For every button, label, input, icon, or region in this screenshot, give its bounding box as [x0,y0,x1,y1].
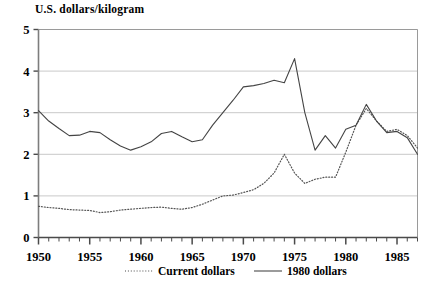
x-axis-tick-label: 1975 [282,250,307,264]
y-axis-tick-label: 5 [23,23,29,37]
chart-container: U.S. dollars/kilogram 012345 19501955196… [0,0,437,298]
x-axis-ticks-group: 19501955196019651970197519801985 [26,238,418,264]
y-axis-tick-label: 0 [23,231,29,245]
data-series-group [39,59,418,213]
series-line-current-dollars [39,109,418,213]
x-axis-tick-label: 1955 [77,250,102,264]
y-axis-ticks-group: 012345 [23,23,38,245]
y-axis-tick-label: 3 [23,106,29,120]
x-axis-tick-label: 1965 [180,250,205,264]
series-line-1980-dollars [39,59,418,155]
y-axis-tick-label: 2 [23,148,29,162]
x-axis-tick-label: 1950 [26,250,51,264]
x-axis-tick-label: 1985 [385,250,410,264]
y-axis-tick-label: 4 [23,65,30,79]
y-axis-tick-label: 1 [23,189,29,203]
legend-label-1980-dollars: 1980 dollars [287,265,347,277]
x-axis-tick-label: 1970 [231,250,256,264]
chart-plot: 012345 19501955196019651970197519801985 … [0,0,437,298]
legend-label-current-dollars: Current dollars [158,265,235,277]
x-axis-tick-label: 1960 [128,250,153,264]
x-axis-tick-label: 1980 [333,250,358,264]
legend: Current dollars1980 dollars [125,265,347,277]
plot-frame [39,30,418,238]
gridlines-group [39,30,418,196]
